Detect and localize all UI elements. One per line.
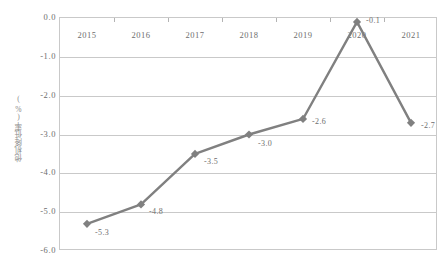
- data-point-label: -2.6: [312, 118, 326, 126]
- y-tick-label: -5.0: [28, 207, 56, 216]
- y-tick-label: -4.0: [28, 168, 56, 177]
- series-polyline: [87, 22, 411, 224]
- y-tick-label: -6.0: [28, 246, 56, 255]
- line-chart: 他机降低率(%) 0.0-1.0-2.0-3.0-4.0-5.0-6.0 201…: [0, 0, 448, 267]
- y-tick-label: -1.0: [28, 52, 56, 61]
- y-tick-label: 0.0: [28, 13, 56, 22]
- data-point-label: -3.0: [258, 140, 272, 148]
- data-point-label: -5.3: [95, 229, 109, 237]
- y-tick-label: -3.0: [28, 130, 56, 139]
- y-axis-tick-labels: 0.0-1.0-2.0-3.0-4.0-5.0-6.0: [26, 17, 56, 250]
- data-point-label: -0.1: [366, 17, 380, 25]
- series-line: [60, 18, 438, 251]
- y-tick-label: -2.0: [28, 91, 56, 100]
- data-point-label: -4.8: [149, 208, 163, 216]
- data-point-marker: [83, 220, 91, 228]
- plot-area: 2015201620172018201920202021 -5.3-4.8-3.…: [59, 17, 437, 250]
- data-point-label: -3.5: [204, 158, 218, 166]
- data-point-label: -2.7: [421, 122, 435, 130]
- data-point-marker: [245, 130, 253, 138]
